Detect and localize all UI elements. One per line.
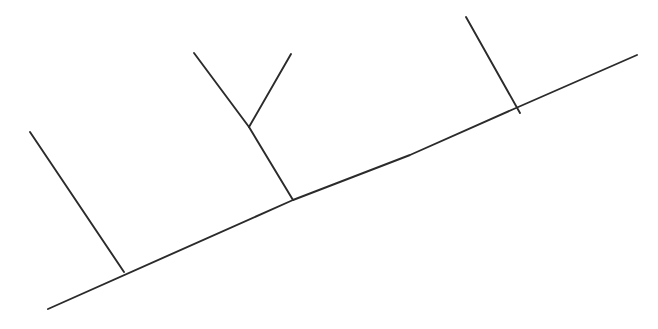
drawing-canvas — [0, 0, 658, 329]
line-drawing-svg — [0, 0, 658, 329]
canvas-background — [0, 0, 658, 329]
